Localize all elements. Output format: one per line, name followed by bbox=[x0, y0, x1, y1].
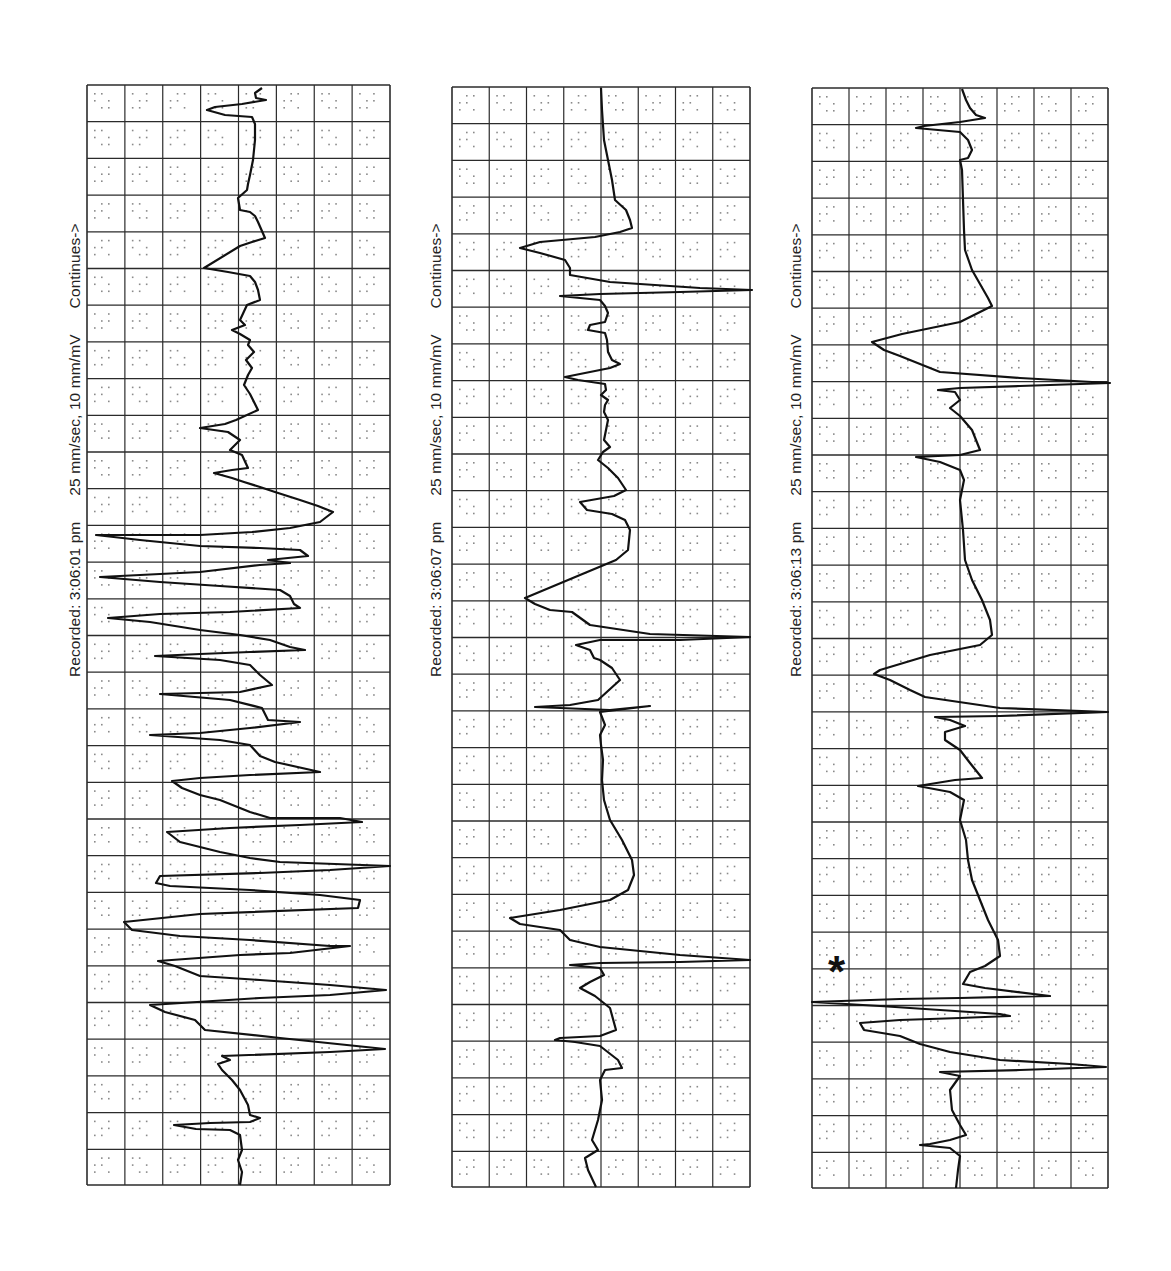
ecg-strips-figure bbox=[0, 0, 1171, 1271]
strip-2-grid bbox=[452, 87, 750, 1187]
strip-1-ecg-trace bbox=[96, 88, 390, 1185]
strip-3-grid bbox=[812, 88, 1108, 1188]
asterisk-annotation: * bbox=[828, 950, 845, 994]
